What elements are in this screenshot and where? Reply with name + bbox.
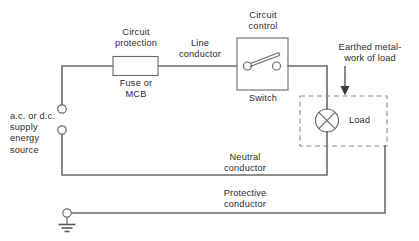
fuse-rectangle-symbol (113, 57, 158, 76)
switch-blade-tip (279, 53, 280, 56)
label-neutral-conductor: Neutral conductor (205, 152, 285, 174)
label-earthed-metalwork: Earthed metal- work of load (323, 42, 417, 64)
label-switch: Switch (232, 93, 294, 104)
earth-ground-symbol (59, 217, 76, 231)
label-circuit-protection: Circuit protection (100, 27, 172, 49)
label-protective-conductor: Protective conductor (200, 188, 290, 210)
label-circuit-control: Circuit control (228, 10, 298, 32)
label-fuse-or-mcb: Fuse or MCB (100, 78, 172, 100)
label-supply-source: a.c. or d.c. supply energy source (10, 111, 68, 156)
circuit-diagram: Circuit protection Fuse or MCB Line cond… (0, 0, 419, 241)
label-load: Load (349, 115, 389, 126)
label-line-conductor: Line conductor (167, 38, 233, 60)
neutral-conductor-wire (62, 132, 327, 175)
switch-contact-right (273, 62, 281, 70)
protective-earth-terminal (63, 209, 71, 217)
down-arrow-pointer (341, 66, 350, 96)
